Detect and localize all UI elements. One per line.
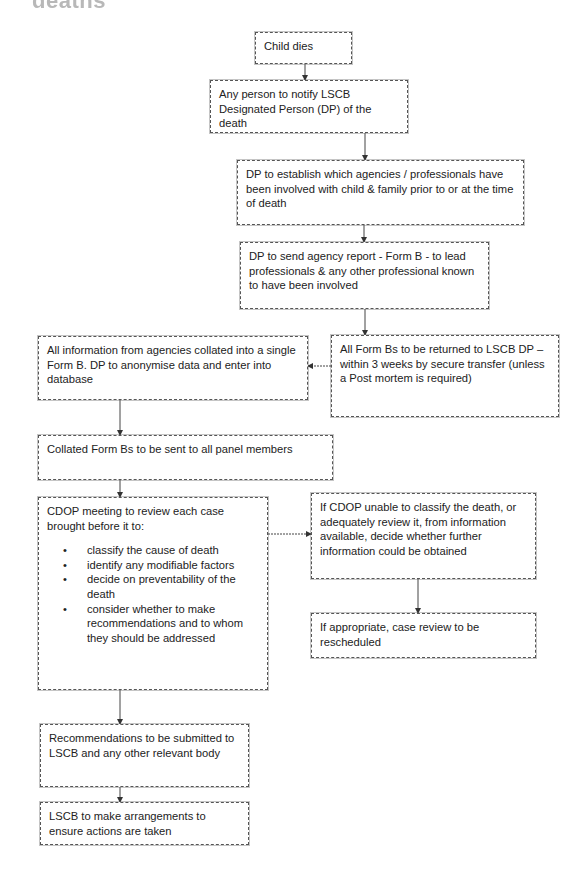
node-text: Child dies (264, 39, 343, 54)
node-text: Any person to notify LSCB Designated Per… (219, 87, 399, 131)
node-text: DP to establish which agencies / profess… (246, 167, 515, 211)
node-return-form-bs: All Form Bs to be returned to LSCB DP – … (331, 335, 559, 417)
node-send-panel: Collated Form Bs to be sent to all panel… (38, 435, 333, 480)
node-text: CDOP meeting to review each case brought… (47, 504, 259, 533)
node-text: If CDOP unable to classify the death, or… (320, 500, 527, 558)
node-cdop-meeting: CDOP meeting to review each case brought… (38, 497, 268, 690)
node-text: DP to send agency report - Form B - to l… (249, 249, 480, 293)
list-item: decide on preventability of the death (87, 572, 259, 601)
node-send-form-b: DP to send agency report - Form B - to l… (240, 242, 489, 309)
node-text: All information from agencies collated i… (47, 343, 299, 387)
node-text: All Form Bs to be returned to LSCB DP – … (340, 342, 550, 386)
node-text: If appropriate, case review to be resche… (320, 620, 527, 649)
node-text: Collated Form Bs to be sent to all panel… (47, 442, 324, 457)
list-item: consider whether to make recommendations… (87, 602, 259, 646)
page-heading-fragment: deaths (32, 0, 106, 14)
node-notify-dp: Any person to notify LSCB Designated Per… (210, 80, 408, 133)
node-text: Recommendations to be submitted to LSCB … (49, 731, 240, 760)
cdop-objectives-list: classify the cause of death identify any… (47, 543, 259, 645)
node-unable-classify: If CDOP unable to classify the death, or… (311, 493, 536, 579)
node-text: LSCB to make arrangements to ensure acti… (49, 809, 240, 838)
node-establish-agencies: DP to establish which agencies / profess… (237, 160, 524, 225)
node-recommendations: Recommendations to be submitted to LSCB … (40, 724, 249, 787)
node-reschedule: If appropriate, case review to be resche… (311, 613, 536, 658)
node-lscb-actions: LSCB to make arrangements to ensure acti… (40, 802, 249, 845)
node-collate-info: All information from agencies collated i… (38, 336, 308, 400)
node-child-dies: Child dies (255, 32, 352, 64)
list-item: classify the cause of death (87, 543, 259, 558)
list-item: identify any modifiable factors (87, 558, 259, 573)
